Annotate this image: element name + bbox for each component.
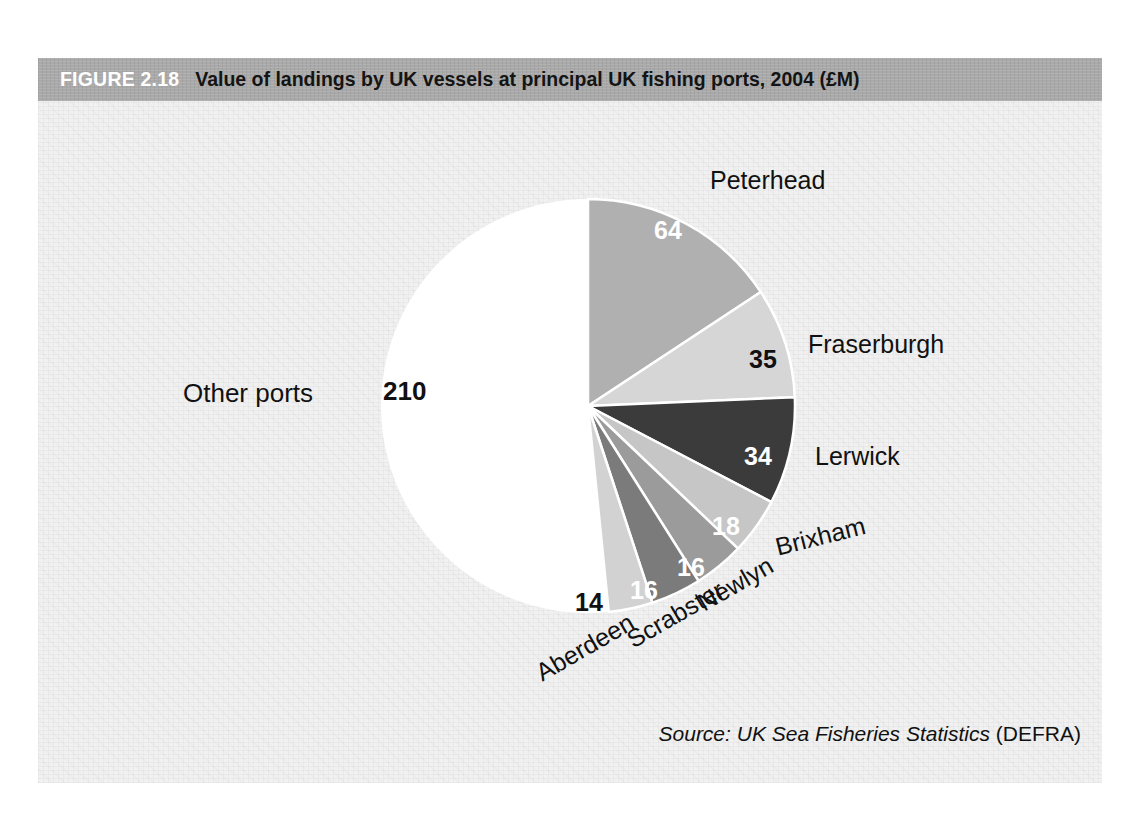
slice-value-scrabster: 16 xyxy=(630,576,658,605)
slice-value-newlyn: 16 xyxy=(677,553,705,582)
source-roman-text: (DEFRA) xyxy=(996,722,1081,745)
slice-value-peterhead: 64 xyxy=(654,216,682,245)
slice-value-lerwick: 34 xyxy=(744,442,772,471)
slice-value-aberdeen: 14 xyxy=(575,588,603,617)
slice-label-lerwick: Lerwick xyxy=(815,442,900,471)
figure-background-panel xyxy=(38,100,1102,783)
figure-title: Value of landings by UK vessels at princ… xyxy=(195,68,859,91)
figure-banner: FIGURE 2.18 Value of landings by UK vess… xyxy=(38,58,1102,101)
source-note: Source: UK Sea Fisheries Statistics (DEF… xyxy=(659,722,1081,746)
figure-root: FIGURE 2.18 Value of landings by UK vess… xyxy=(0,0,1143,832)
slice-value-brixham: 18 xyxy=(712,512,740,541)
slice-label-other-ports: Other ports xyxy=(183,378,313,409)
figure-number-label: FIGURE 2.18 xyxy=(60,68,179,91)
slice-value-other-ports: 210 xyxy=(383,376,426,407)
slice-label-peterhead: Peterhead xyxy=(710,166,825,195)
slice-label-fraserburgh: Fraserburgh xyxy=(808,330,944,359)
slice-value-fraserburgh: 35 xyxy=(749,345,777,374)
source-italic-text: Source: UK Sea Fisheries Statistics xyxy=(659,722,990,745)
